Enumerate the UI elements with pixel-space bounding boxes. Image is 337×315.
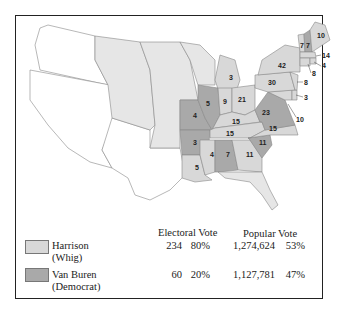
label-sc: 11	[259, 139, 267, 146]
label-la: 5	[195, 164, 199, 171]
label-ma: 14	[322, 52, 330, 59]
state-fl	[218, 172, 278, 210]
label-ar: 3	[193, 139, 197, 146]
label-me: 10	[317, 32, 325, 39]
state-ny	[258, 45, 300, 75]
label-oh: 21	[238, 96, 246, 103]
label-mi: 3	[229, 74, 233, 81]
label-mo: 4	[193, 112, 197, 119]
label-nj: 8	[304, 79, 308, 86]
label-ny: 42	[278, 62, 286, 69]
label-pa: 30	[268, 79, 276, 86]
label-md: 10	[296, 116, 304, 123]
label-vt: 7	[300, 42, 304, 49]
label-nh: 7	[306, 42, 310, 49]
label-ri: 4	[322, 62, 326, 69]
label-in: 9	[223, 98, 227, 105]
label-de: 3	[304, 94, 308, 101]
label-tn: 15	[226, 130, 234, 137]
label-nc: 15	[269, 125, 277, 132]
us-map-1840: 4 5 9 21 3 15 15 3 5 4 7 11 11 15 23 30 …	[0, 0, 337, 315]
mexico-california	[30, 70, 115, 168]
state-ri	[310, 58, 316, 64]
label-ga: 11	[246, 151, 254, 158]
label-va: 23	[262, 109, 270, 116]
label-ms: 4	[210, 151, 214, 158]
label-ky: 15	[232, 118, 240, 125]
label-al: 7	[226, 151, 230, 158]
label-il: 5	[206, 100, 210, 107]
state-ma	[300, 52, 316, 58]
label-ct: 8	[312, 70, 316, 77]
